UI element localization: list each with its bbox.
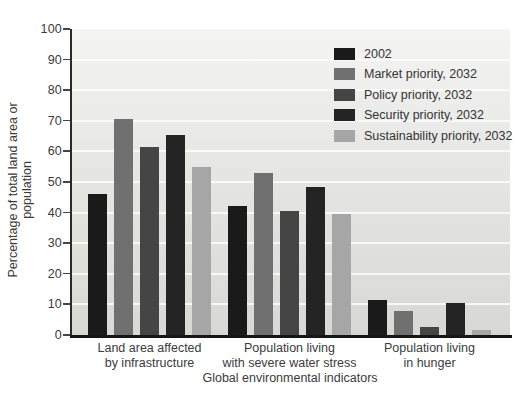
x-category-label-line1: Population living (340, 341, 520, 356)
bar-cat3-series1 (368, 300, 387, 335)
y-tick-label-30: 30 (48, 236, 62, 250)
gridline-60 (70, 150, 510, 152)
bar-cat2-series1 (228, 206, 247, 335)
bar-cat1-series4 (166, 135, 185, 335)
y-tick-label-90: 90 (48, 53, 62, 67)
legend-label: Market priority, 2032 (364, 67, 477, 81)
bar-cat2-series4 (306, 187, 325, 335)
bar-cat1-series3 (140, 147, 159, 335)
legend-row-3: Policy priority, 2032 (334, 88, 512, 101)
y-tick-label-100: 100 (41, 22, 62, 36)
y-tick-0 (63, 334, 70, 336)
legend-label: Security priority, 2032 (364, 108, 484, 122)
bar-cat2-series2 (254, 173, 273, 335)
bar-cat1-series2 (114, 119, 133, 335)
bar-cat2-series3 (280, 211, 299, 335)
y-tick-label-20: 20 (48, 267, 62, 281)
legend-swatch-icon (334, 130, 355, 142)
bar-chart-figure: Percentage of total land area or populat… (0, 0, 531, 403)
bar-cat1-series5 (192, 167, 211, 335)
y-tick-label-40: 40 (48, 206, 62, 220)
legend-label: Policy priority, 2032 (364, 88, 472, 102)
y-tick-10 (63, 303, 70, 305)
legend-swatch-icon (334, 89, 355, 101)
bar-cat3-series4 (446, 303, 465, 335)
x-axis-title: Global environmental indicators (130, 371, 450, 385)
legend-row-5: Sustainability priority, 2032 (334, 129, 512, 142)
y-tick-label-0: 0 (55, 328, 62, 342)
x-axis-line (70, 335, 512, 338)
y-tick-20 (63, 273, 70, 275)
legend-label: 2002 (364, 47, 392, 61)
legend: 2002Market priority, 2032Policy priority… (334, 47, 512, 142)
x-category-label-3: Population livingin hunger (340, 341, 520, 370)
legend-row-2: Market priority, 2032 (334, 68, 512, 81)
y-tick-label-80: 80 (48, 83, 62, 97)
bar-cat3-series3 (420, 327, 439, 335)
y-tick-100 (63, 28, 70, 30)
y-tick-70 (63, 120, 70, 122)
y-tick-label-70: 70 (48, 114, 62, 128)
y-tick-40 (63, 212, 70, 214)
y-tick-30 (63, 242, 70, 244)
y-tick-label-50: 50 (48, 175, 62, 189)
bar-cat3-series2 (394, 311, 413, 335)
legend-swatch-icon (334, 68, 355, 80)
y-axis-line (70, 29, 72, 335)
x-category-label-line2: in hunger (340, 356, 520, 371)
y-tick-60 (63, 150, 70, 152)
legend-row-4: Security priority, 2032 (334, 109, 512, 122)
legend-swatch-icon (334, 48, 355, 60)
y-tick-80 (63, 89, 70, 91)
legend-label: Sustainability priority, 2032 (364, 129, 512, 143)
bar-cat1-series1 (88, 194, 107, 335)
y-tick-label-60: 60 (48, 144, 62, 158)
y-tick-50 (63, 181, 70, 183)
y-tick-90 (63, 59, 70, 61)
y-axis-title: Percentage of total land area or populat… (6, 75, 34, 305)
gridline-50 (70, 181, 510, 183)
bar-cat2-series5 (332, 214, 351, 335)
legend-swatch-icon (334, 109, 355, 121)
y-tick-label-10: 10 (48, 297, 62, 311)
legend-row-1: 2002 (334, 47, 512, 60)
